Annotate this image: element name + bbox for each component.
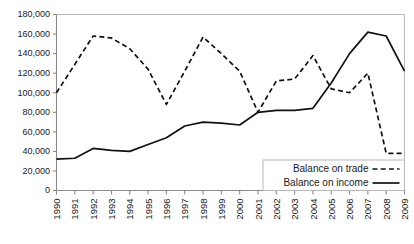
legend-label: Balance on trade — [293, 163, 369, 174]
series-dashed — [57, 36, 405, 153]
y-tick-label: 80,000 — [22, 107, 50, 117]
y-tick-label: 180,000 — [17, 9, 50, 19]
x-tick-label: 2002 — [271, 199, 282, 220]
y-tick-label: 60,000 — [22, 127, 50, 137]
y-tick-label: 100,000 — [17, 88, 50, 98]
y-tick-label: 140,000 — [17, 48, 50, 58]
x-tick-label: 1990 — [51, 199, 62, 220]
line-chart: 020,00040,00060,00080,000100,000120,0001… — [0, 0, 414, 244]
x-tick-label: 1997 — [179, 199, 190, 220]
x-tick-label: 2009 — [399, 199, 410, 220]
y-tick-label: 0 — [45, 185, 50, 195]
y-tick-label: 160,000 — [17, 29, 50, 39]
y-axis-ticks: 020,00040,00060,00080,000100,000120,0001… — [17, 9, 56, 195]
x-tick-label: 1998 — [198, 199, 209, 220]
x-tick-label: 2006 — [344, 199, 355, 220]
x-tick-label: 2005 — [326, 199, 337, 220]
x-tick-label: 2001 — [253, 199, 264, 220]
y-tick-label: 20,000 — [22, 166, 50, 176]
series-lines — [57, 32, 405, 159]
x-tick-label: 1999 — [216, 199, 227, 220]
chart-container: 020,00040,00060,00080,000100,000120,0001… — [0, 0, 414, 244]
x-tick-label: 1991 — [69, 199, 80, 220]
x-tick-label: 1995 — [143, 199, 154, 220]
x-tick-label: 1994 — [124, 199, 135, 220]
x-tick-label: 1993 — [106, 199, 117, 220]
x-tick-label: 1992 — [88, 199, 99, 220]
x-tick-label: 1996 — [161, 199, 172, 220]
x-tick-label: 2007 — [362, 199, 373, 220]
y-tick-label: 120,000 — [17, 68, 50, 78]
series-solid — [57, 32, 405, 159]
x-tick-label: 2000 — [234, 199, 245, 220]
chart-legend: Balance on tradeBalance on income — [263, 160, 405, 191]
x-tick-label: 2008 — [381, 199, 392, 220]
y-tick-label: 40,000 — [22, 146, 50, 156]
legend-label: Balance on income — [283, 177, 368, 188]
x-tick-label: 2003 — [289, 199, 300, 220]
x-axis-ticks: 1990199119921993199419951996199719981999… — [51, 191, 410, 220]
x-tick-label: 2004 — [308, 199, 319, 220]
